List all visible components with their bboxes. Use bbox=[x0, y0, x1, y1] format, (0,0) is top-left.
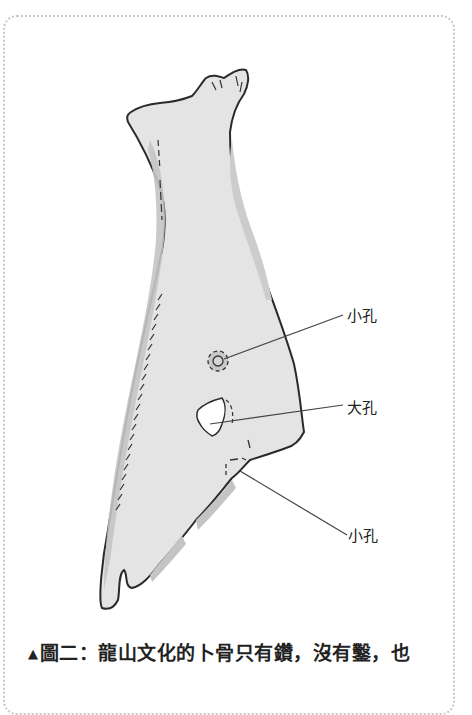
annotation-small-hole-lower: 小孔 bbox=[348, 524, 378, 545]
caption-text: 圖二：龍山文化的卜骨只有鑽，沒有鑿，也 bbox=[40, 642, 411, 664]
figure-caption: ▲圖二：龍山文化的卜骨只有鑽，沒有鑿，也 bbox=[28, 638, 410, 665]
bone-outline bbox=[100, 70, 304, 609]
small-hole-upper bbox=[208, 351, 228, 371]
annotation-small-hole-upper: 小孔 bbox=[347, 304, 377, 325]
annotation-large-hole: 大孔 bbox=[347, 396, 377, 417]
oracle-bone-illustration bbox=[0, 0, 472, 620]
triangle-marker-icon: ▲ bbox=[28, 646, 39, 661]
